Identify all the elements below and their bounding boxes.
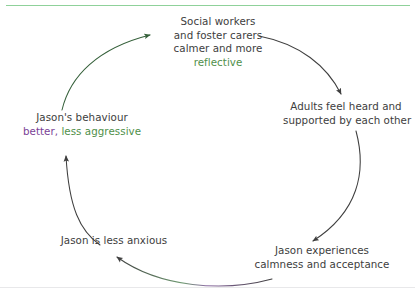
arrow-behaviour-to-social <box>62 35 150 110</box>
node-line: Jason experiences <box>246 244 398 258</box>
node-jason-less-anxious: Jason is less anxious <box>50 234 178 248</box>
node-line: Jason is less anxious <box>50 234 178 248</box>
node-social-workers: Social workers and foster carers calmer … <box>148 15 288 69</box>
node-emphasis-purple: better, <box>23 125 58 137</box>
node-line: calmness and acceptance <box>246 258 398 272</box>
node-line: Social workers <box>148 15 288 29</box>
node-jason-behaviour: Jason's behaviour better, less aggressiv… <box>10 111 154 138</box>
node-adults-supported: Adults feel heard and supported by each … <box>283 100 409 127</box>
arrow-anxious-to-behaviour <box>66 156 100 245</box>
diagram-canvas: Social workers and foster carers calmer … <box>0 0 415 302</box>
arrow-adults-to-calmness <box>313 131 360 241</box>
node-line-emphasis-row: better, less aggressive <box>10 125 154 139</box>
node-jason-calmness: Jason experiences calmness and acceptanc… <box>246 244 398 271</box>
node-line: Adults feel heard and <box>283 100 409 114</box>
node-line-emphasis: reflective <box>148 56 288 70</box>
node-line: and foster carers <box>148 29 288 43</box>
node-line: calmer and more <box>148 42 288 56</box>
node-line: supported by each other <box>283 114 409 128</box>
node-line: Jason's behaviour <box>10 111 154 125</box>
node-emphasis-green: less aggressive <box>61 125 141 137</box>
